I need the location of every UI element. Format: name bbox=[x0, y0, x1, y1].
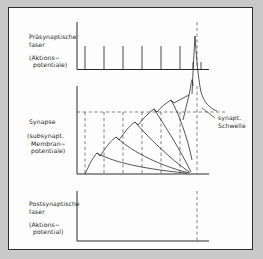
epsp-decay-tails bbox=[97, 95, 192, 173]
panel-postsynaptic bbox=[77, 191, 209, 241]
figure-frame: Präsynaptische faser (Aktions− potential… bbox=[8, 7, 253, 250]
threshold-crossing-spike bbox=[189, 36, 217, 111]
synapse-axes bbox=[77, 86, 209, 174]
presynaptic-spike-train bbox=[85, 46, 201, 70]
synapse-droplines bbox=[85, 112, 180, 174]
postsynaptic-axes bbox=[77, 191, 209, 241]
panel-synapse bbox=[77, 36, 225, 174]
diagram-canvas bbox=[9, 8, 254, 251]
panel-presynaptic bbox=[77, 22, 209, 70]
presynaptic-axes bbox=[77, 22, 209, 70]
epsp-summation-envelope bbox=[85, 95, 189, 174]
